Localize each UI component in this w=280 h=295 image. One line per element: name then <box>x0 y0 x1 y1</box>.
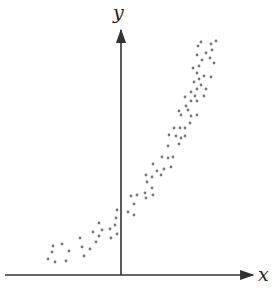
data-point <box>190 91 193 94</box>
data-point <box>151 187 154 190</box>
data-point <box>163 168 166 171</box>
data-point <box>211 49 214 52</box>
data-point <box>98 235 101 238</box>
data-point <box>192 67 195 70</box>
data-point <box>101 229 104 232</box>
data-point <box>65 260 68 263</box>
data-point <box>213 62 216 65</box>
data-point <box>152 163 155 166</box>
data-point <box>146 181 149 184</box>
data-point <box>201 59 204 62</box>
data-point <box>197 45 200 48</box>
data-point <box>190 115 193 118</box>
data-point <box>184 96 187 99</box>
y-axis-label: y <box>112 1 124 23</box>
data-point <box>156 170 159 173</box>
data-point <box>210 43 213 46</box>
data-point <box>115 217 118 220</box>
data-point <box>203 95 206 98</box>
data-point <box>160 174 163 177</box>
data-point <box>167 145 170 148</box>
data-point <box>116 209 119 212</box>
data-point <box>198 78 201 81</box>
data-point <box>185 105 188 108</box>
data-point <box>133 203 136 206</box>
data-points <box>47 40 218 264</box>
data-point <box>68 250 71 253</box>
data-point <box>145 174 148 177</box>
data-point <box>130 195 133 198</box>
data-point <box>168 134 171 137</box>
scatter-plot: y x <box>0 0 280 295</box>
data-point <box>127 211 130 214</box>
data-point <box>209 57 212 60</box>
data-point <box>136 194 139 197</box>
data-point <box>172 156 175 159</box>
data-point <box>196 100 199 103</box>
data-point <box>161 156 164 159</box>
data-point <box>145 197 148 200</box>
data-point <box>198 65 201 68</box>
data-point <box>144 192 147 195</box>
data-point <box>151 176 154 179</box>
data-point <box>152 194 155 197</box>
data-point <box>81 246 84 249</box>
x-axis-label: x <box>258 263 269 285</box>
data-point <box>95 241 98 244</box>
data-point <box>194 95 197 98</box>
data-point <box>89 248 92 251</box>
data-point <box>114 224 117 227</box>
data-point <box>189 122 192 125</box>
data-point <box>210 76 213 79</box>
data-point <box>184 135 187 138</box>
data-point <box>52 245 55 248</box>
data-point <box>178 143 181 146</box>
data-point <box>196 114 199 117</box>
data-point <box>170 166 173 169</box>
data-point <box>205 88 208 91</box>
data-point <box>47 258 50 261</box>
data-point <box>196 54 199 57</box>
data-point <box>184 127 187 130</box>
data-point <box>180 114 183 117</box>
data-point <box>190 100 193 103</box>
data-point <box>51 251 54 254</box>
data-point <box>187 109 190 112</box>
data-point <box>173 127 176 130</box>
data-point <box>116 233 119 236</box>
data-point <box>133 214 136 217</box>
data-point <box>83 255 86 258</box>
data-point <box>180 137 183 140</box>
data-point <box>196 88 199 91</box>
data-point <box>196 72 199 75</box>
data-point <box>79 237 82 240</box>
data-point <box>203 75 206 78</box>
data-point <box>178 110 181 113</box>
data-point <box>205 52 208 55</box>
data-point <box>98 222 101 225</box>
data-point <box>61 243 64 246</box>
data-point <box>92 231 95 234</box>
data-point <box>193 81 196 84</box>
data-point <box>110 237 113 240</box>
data-point <box>54 261 57 264</box>
data-point <box>109 228 112 231</box>
data-point <box>215 40 218 43</box>
data-point <box>179 127 182 130</box>
data-point <box>167 157 170 160</box>
data-point <box>200 41 203 44</box>
data-point <box>200 84 203 87</box>
data-point <box>175 135 178 138</box>
